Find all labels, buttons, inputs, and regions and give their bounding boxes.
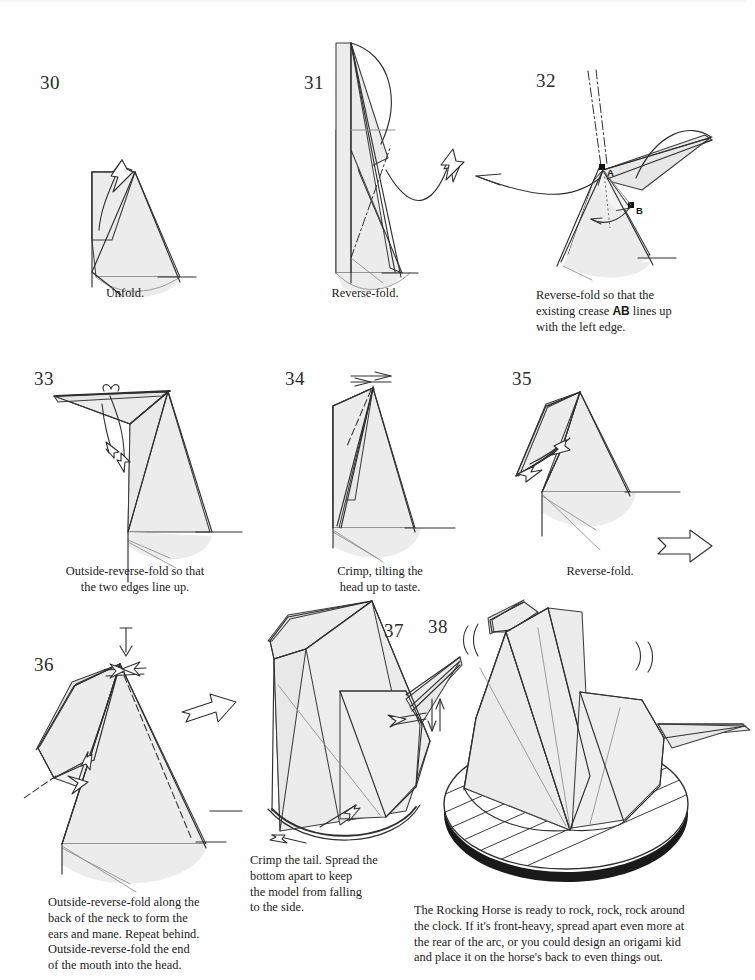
step-number-37: 37 xyxy=(384,620,404,642)
step-38-caption-line-4: and place it on the horse's back to even… xyxy=(414,950,663,964)
step-34-caption-line-2: head up to taste. xyxy=(340,580,421,594)
step-number-35: 35 xyxy=(512,368,532,390)
step-32: 32 A xyxy=(460,30,746,320)
step-36-caption-line-4: Outside-reverse-fold the end xyxy=(48,942,190,956)
step-number-31: 31 xyxy=(304,72,324,94)
step-38-figure xyxy=(420,598,746,918)
step-33: 33 xyxy=(10,360,260,600)
step-30-figure xyxy=(0,30,250,290)
step-36-caption-line-3: ears and mane. Repeat behind. xyxy=(48,927,199,941)
step-37-caption-line-2: bottom apart to keep xyxy=(250,869,352,883)
step-35: 35 R xyxy=(490,360,746,600)
step-36: 36 xyxy=(10,612,240,892)
step-36-caption: Outside-reverse-fold along the back of t… xyxy=(48,895,258,974)
step-30: 30 Unfold. xyxy=(0,30,250,290)
step-37-caption-line-4: to the side. xyxy=(250,900,304,914)
step-31-caption: Reverse-fold. xyxy=(240,286,490,302)
step-number-32: 32 xyxy=(536,70,556,92)
step-number-36: 36 xyxy=(34,654,54,676)
step-34-caption-line-1: Crimp, tilting the xyxy=(337,564,423,578)
step-36-caption-line-2: back of the neck to form the xyxy=(48,911,188,925)
crease-ab-label: AB xyxy=(612,304,629,318)
step-31-figure xyxy=(240,30,490,290)
step-33-caption: Outside-reverse-fold so that the two edg… xyxy=(10,564,260,596)
step-32-figure: A B xyxy=(460,30,746,320)
step-32-caption-line-2-pre: existing crease xyxy=(536,304,612,318)
step-number-30: 30 xyxy=(40,72,60,94)
step-32-caption-line-1: Reverse-fold so that the xyxy=(536,288,654,302)
step-38-caption: The Rocking Horse is ready to rock, rock… xyxy=(414,903,755,966)
point-marker-a xyxy=(599,164,605,170)
step-32-caption: Reverse-fold so that the existing crease… xyxy=(536,288,736,335)
step-30-caption: Unfold. xyxy=(0,286,250,302)
step-38: 38 xyxy=(420,598,746,918)
step-34: 34 Crimp, tilting xyxy=(255,360,505,600)
step-number-38: 38 xyxy=(428,616,448,638)
step-number-34: 34 xyxy=(285,368,305,390)
step-32-caption-line-2-post: lines up xyxy=(630,304,672,318)
step-34-caption: Crimp, tilting the head up to taste. xyxy=(255,564,505,596)
step-32-caption-line-3: with the left edge. xyxy=(536,320,625,334)
step-number-33: 33 xyxy=(34,368,54,390)
step-36-caption-line-1: Outside-reverse-fold along the xyxy=(48,895,199,909)
step-38-caption-line-2: the clock. If it's front-heavy, spread a… xyxy=(414,919,684,933)
step-37-caption-line-1: Crimp the tail. Spread the xyxy=(250,853,378,867)
step-35-caption: Reverse-fold. xyxy=(490,564,710,580)
step-33-caption-line-1: Outside-reverse-fold so that xyxy=(66,564,204,578)
step-37-caption-line-3: the model from falling xyxy=(250,885,362,899)
point-label-b: B xyxy=(636,205,643,216)
step-38-caption-line-1: The Rocking Horse is ready to rock, rock… xyxy=(414,903,685,917)
step-38-caption-line-3: the rear of the arc, or you could design… xyxy=(414,935,681,949)
step-36-caption-line-5: of the mouth into the head. xyxy=(48,958,182,972)
step-33-caption-line-2: the two edges line up. xyxy=(81,580,189,594)
step-31: 31 Reverse-fold. xyxy=(240,30,490,290)
